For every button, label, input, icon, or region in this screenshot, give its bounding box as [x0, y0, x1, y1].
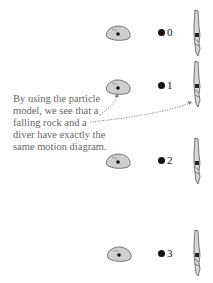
caption-line: model, we see that a — [13, 105, 113, 117]
caption-line: By using the particle — [13, 93, 113, 105]
arrowhead-icon — [115, 93, 119, 97]
caption: By using the particle model, we see that… — [13, 93, 113, 153]
caption-line: falling rock and a — [13, 117, 113, 129]
caption-line: diver have exactly the — [13, 129, 113, 141]
caption-line: same motion diagram. — [13, 141, 113, 153]
arrowhead-icon — [188, 101, 192, 105]
